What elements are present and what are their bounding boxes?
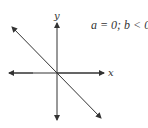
graph: x y a = 0; b < 0 bbox=[0, 0, 148, 128]
y-axis-label: y bbox=[53, 10, 60, 21]
condition-label: a = 0; b < 0 bbox=[91, 18, 148, 32]
x-axis-label: x bbox=[108, 67, 114, 78]
